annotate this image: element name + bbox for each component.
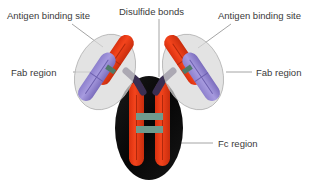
- label-fab-region-left: Fab region: [11, 67, 56, 78]
- label-fab-region-right: Fab region: [256, 67, 301, 78]
- antibody-diagram-figure: Antigen binding site Disulfide bonds Ant…: [0, 0, 324, 189]
- label-antigen-binding-site-right: Antigen binding site: [218, 10, 301, 21]
- disulfide-bond-fc-1: [136, 113, 163, 120]
- diagram-canvas: Antigen binding site Disulfide bonds Ant…: [0, 0, 324, 189]
- label-antigen-binding-site-left: Antigen binding site: [7, 10, 90, 21]
- label-fc-region: Fc region: [218, 138, 258, 149]
- disulfide-bond-fc-2: [136, 126, 163, 133]
- label-disulfide-bonds: Disulfide bonds: [119, 6, 184, 17]
